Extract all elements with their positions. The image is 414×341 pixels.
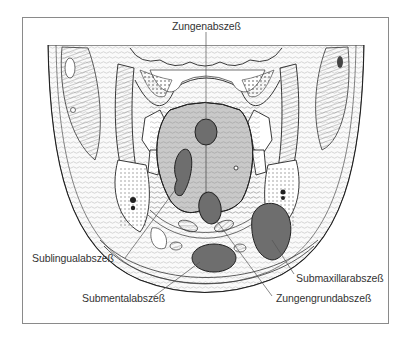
submentalabszess-region	[192, 244, 236, 272]
label-sublingualabszess: Sublingualabszeß	[32, 252, 114, 264]
anatomy-illustration	[0, 0, 414, 341]
label-zungengrundabszess: Zungengrundabszeß	[276, 292, 371, 304]
sublingual-gland-left	[115, 160, 149, 232]
label-zungenabszess: Zungenabszeß	[172, 20, 241, 32]
zungenabszess-region	[195, 119, 217, 145]
label-submaxillarabszess: Submaxillarabszeß	[296, 272, 384, 284]
label-submentalabszess: Submentalabszeß	[82, 292, 165, 304]
